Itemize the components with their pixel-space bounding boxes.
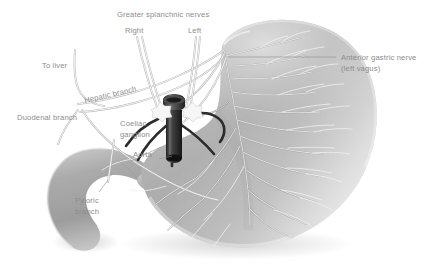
leader-pyloric bbox=[99, 180, 108, 192]
label-aorta: Aorta bbox=[133, 150, 153, 159]
anatomy-diagram: Greater splanchnic nerves Right Left Ant… bbox=[0, 0, 438, 264]
label-anterior-gastric-nerve-sub: (left vagus) bbox=[341, 64, 381, 73]
label-left: Left bbox=[188, 26, 202, 35]
label-coeliac-ganglion: Coeliac bbox=[120, 119, 146, 128]
label-greater-splanchnic-nerves: Greater splanchnic nerves bbox=[117, 10, 209, 19]
label-to-liver: To liver bbox=[42, 61, 68, 70]
label-right: Right bbox=[125, 26, 144, 35]
label-pyloric-branch: Pyloric bbox=[75, 196, 99, 205]
label-coeliac-ganglion-sub: ganglion bbox=[120, 130, 150, 139]
label-anterior-gastric-nerve: Anterior gastric nerve bbox=[341, 53, 416, 62]
label-hepatic-branch: Hepatic branch bbox=[83, 84, 137, 105]
label-duodenal-branch: Duodenal branch bbox=[17, 113, 77, 122]
label-pyloric-branch-sub: branch bbox=[75, 207, 99, 216]
